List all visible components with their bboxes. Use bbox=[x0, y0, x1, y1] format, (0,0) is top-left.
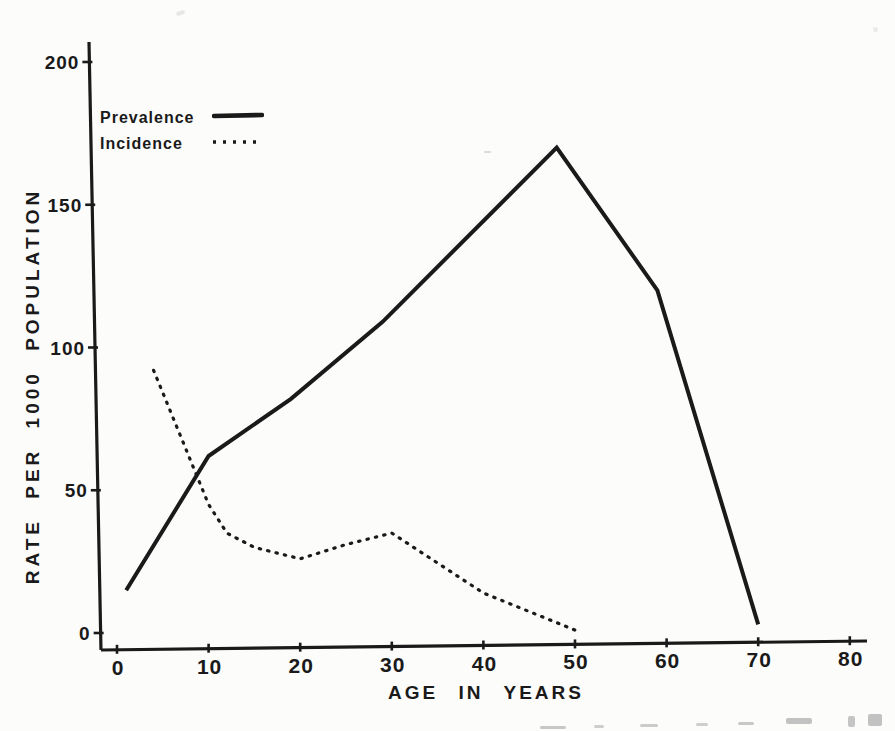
x-tick-label-10: 10 bbox=[197, 655, 222, 678]
y-tick-label-150: 150 bbox=[48, 195, 83, 216]
x-tick-label-70: 70 bbox=[747, 648, 772, 671]
y-tick-label-0: 0 bbox=[79, 623, 91, 644]
y-tick-label-200: 200 bbox=[45, 52, 80, 73]
x-tick-label-80: 80 bbox=[838, 647, 863, 670]
y-tick-label-50: 50 bbox=[65, 480, 88, 501]
scan-artifact bbox=[640, 724, 658, 727]
scan-artifact bbox=[786, 718, 812, 724]
legend-label-prevalence: Prevalence bbox=[100, 109, 195, 127]
x-tick-label-20: 20 bbox=[289, 654, 314, 677]
scan-artifact bbox=[848, 716, 855, 727]
x-axis-title: AGE IN YEARS bbox=[388, 682, 584, 704]
x-tick-label-30: 30 bbox=[380, 653, 405, 676]
scan-artifact bbox=[594, 725, 604, 728]
incidence-line-swatch bbox=[210, 136, 262, 146]
prevalence-line-swatch bbox=[212, 110, 264, 120]
incidence-line bbox=[154, 370, 575, 630]
scan-artifact bbox=[873, 27, 878, 32]
scan-artifact bbox=[868, 714, 882, 726]
legend-label-incidence: Incidence bbox=[100, 135, 183, 153]
x-tick-label-0: 0 bbox=[112, 656, 125, 679]
x-tick-label-40: 40 bbox=[472, 652, 497, 675]
scan-artifact bbox=[484, 151, 491, 153]
x-tick-label-50: 50 bbox=[563, 650, 588, 673]
prevalence-swatch-line bbox=[214, 115, 262, 116]
scan-artifact bbox=[696, 723, 708, 726]
y-axis-title: RATE PER 1000 POPULATION bbox=[22, 188, 44, 585]
y-axis bbox=[89, 42, 101, 650]
scan-artifact bbox=[738, 722, 754, 725]
scan-artifact bbox=[540, 726, 566, 729]
prevalence-line bbox=[126, 148, 758, 625]
x-tick-label-60: 60 bbox=[655, 649, 680, 672]
scanned-figure-page: 05010015020001020304050607080 Prevalence… bbox=[0, 0, 895, 731]
y-tick-label-100: 100 bbox=[50, 338, 85, 359]
